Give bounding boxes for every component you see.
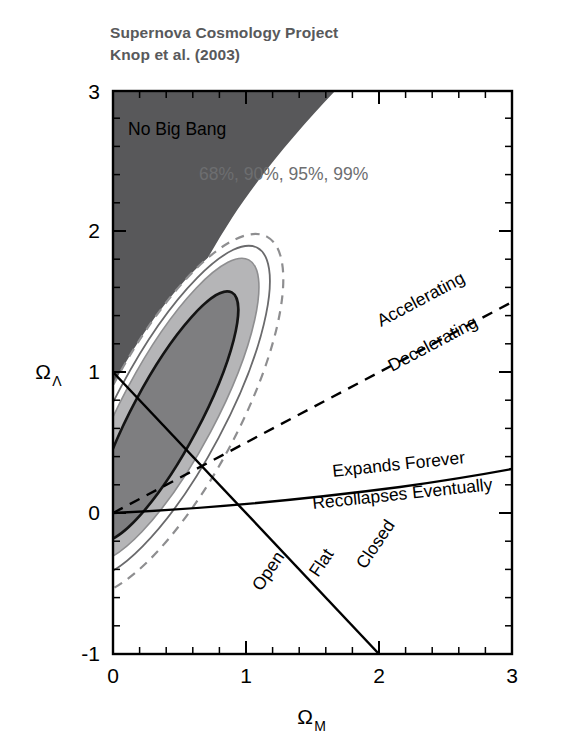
x-tick-label-2: 2 (373, 664, 385, 687)
x-tick-label-1: 1 (240, 664, 252, 687)
x-tick-label-3: 3 (506, 664, 518, 687)
x-axis-title-main: Ω (297, 705, 313, 728)
y-axis-title-sub: Λ (52, 373, 62, 389)
y-tick-label-3: 3 (88, 80, 100, 103)
y-tick-label-1: 1 (88, 360, 100, 383)
figure-container: Supernova Cosmology Project Knop et al. … (0, 0, 573, 751)
y-tick-label-0: 0 (88, 501, 100, 524)
x-axis-title: Ω M (297, 705, 326, 734)
x-axis-title-sub: M (314, 718, 326, 734)
y-tick-label-2: 2 (88, 219, 100, 242)
y-axis-title: Ω Λ (35, 360, 62, 389)
y-tick-label--1: -1 (81, 642, 100, 665)
x-tick-label-0: 0 (107, 664, 119, 687)
cosmology-contour-plot: 0 1 2 3 -1 0 1 2 3 Ω Λ Ω M No Big Bang 6… (0, 0, 573, 751)
label-no-big-bang: No Big Bang (128, 119, 226, 139)
label-confidence-levels: 68%, 90%, 95%, 99% (199, 164, 368, 184)
y-axis-title-main: Ω (35, 360, 51, 383)
